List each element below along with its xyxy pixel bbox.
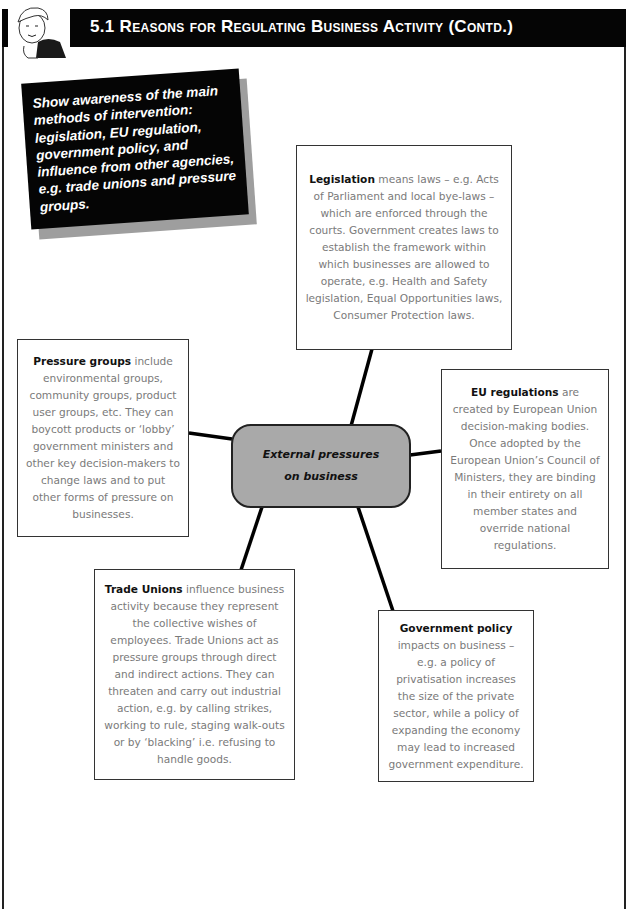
pressure-groups-box: Pressure groups include environmental gr…: [17, 339, 189, 537]
trade-unions-body: influence business activity because they…: [104, 583, 284, 765]
eu-regulations-heading: EU regulations: [471, 386, 559, 398]
government-policy-heading: Government policy: [400, 622, 513, 634]
legislation-box: Legislation means laws – e.g. Acts of Pa…: [296, 145, 512, 350]
hub-line-1: External pressures: [263, 444, 380, 466]
eu-regulations-body: are created by European Union decision-m…: [450, 386, 599, 551]
connector-trade-unions: [241, 507, 262, 570]
connector-pressure-groups: [189, 433, 232, 439]
hub-line-2: on business: [263, 466, 380, 488]
external-pressures-hub: External pressures on business: [231, 424, 411, 508]
legislation-body: means laws – e.g. Acts of Parliament and…: [306, 173, 503, 321]
pressure-groups-heading: Pressure groups: [33, 355, 131, 367]
government-policy-text: Government policy impacts on business – …: [387, 620, 525, 773]
trade-unions-heading: Trade Unions: [105, 583, 183, 595]
eu-regulations-box: EU regulations are created by European U…: [441, 369, 609, 569]
connector-government-policy: [358, 507, 393, 611]
legislation-heading: Legislation: [309, 173, 375, 185]
connector-legislation: [351, 349, 372, 426]
legislation-text: Legislation means laws – e.g. Acts of Pa…: [305, 171, 503, 324]
eu-regulations-text: EU regulations are created by European U…: [450, 384, 600, 554]
government-policy-box: Government policy impacts on business – …: [378, 610, 534, 782]
connector-eu-regulations: [410, 451, 441, 455]
pressure-groups-text: Pressure groups include environmental gr…: [26, 353, 180, 523]
trade-unions-box: Trade Unions influence business activity…: [94, 569, 295, 780]
pressure-groups-body: include environmental groups, community …: [26, 355, 180, 520]
trade-unions-text: Trade Unions influence business activity…: [103, 581, 286, 768]
government-policy-body: impacts on business – e.g. a policy of p…: [388, 639, 523, 770]
